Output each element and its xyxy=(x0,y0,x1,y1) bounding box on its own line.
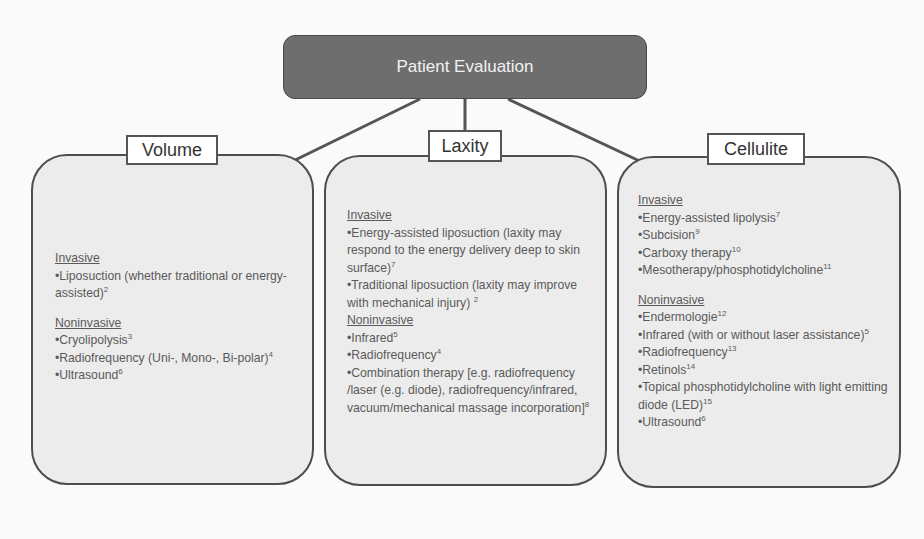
list-item: Radiofrequency13 xyxy=(638,344,888,362)
laxity-content: Invasive Energy-assisted liposuction (la… xyxy=(347,207,592,417)
cellulite-title: Cellulite xyxy=(707,133,805,165)
list-item: Mesotherapy/phosphotidylcholine11 xyxy=(638,262,888,280)
volume-title-label: Volume xyxy=(142,140,202,161)
list-item: Radiofrequency (Uni-, Mono-, Bi-polar)4 xyxy=(55,350,305,368)
list-item: Infrared5 xyxy=(347,330,592,348)
laxity-panel: Invasive Energy-assisted liposuction (la… xyxy=(324,155,607,486)
volume-title: Volume xyxy=(126,135,218,165)
laxity-title-label: Laxity xyxy=(441,136,488,157)
laxity-title: Laxity xyxy=(428,130,502,162)
cellulite-title-label: Cellulite xyxy=(724,139,788,160)
list-item: Combination therapy [e.g. radiofrequency… xyxy=(347,365,592,418)
list-item: Subcision9 xyxy=(638,227,888,245)
list-item: Retinols14 xyxy=(638,362,888,380)
volume-content: Invasive Liposuction (whether traditiona… xyxy=(55,250,305,385)
list-item: Liposuction (whether traditional or ener… xyxy=(55,268,305,303)
list-item: Carboxy therapy10 xyxy=(638,245,888,263)
list-item: Energy-assisted liposuction (laxity may … xyxy=(347,225,592,278)
patient-evaluation-node: Patient Evaluation xyxy=(283,35,647,99)
list-item: Cryolipolysis3 xyxy=(55,332,305,350)
list-item: Topical phosphotidylcholine with light e… xyxy=(638,379,888,414)
list-item: Ultrasound6 xyxy=(638,414,888,432)
section-heading: Invasive xyxy=(55,250,305,268)
section-heading: Invasive xyxy=(638,192,888,210)
list-item: Ultrasound6 xyxy=(55,367,305,385)
cellulite-content: Invasive Energy-assisted lipolysis7 Subc… xyxy=(638,192,888,432)
list-item: Traditional liposuction (laxity may impr… xyxy=(347,277,592,312)
section-heading: Noninvasive xyxy=(347,312,592,330)
section-heading: Noninvasive xyxy=(55,315,305,333)
section-heading: Invasive xyxy=(347,207,592,225)
list-item: Endermologie12 xyxy=(638,309,888,327)
volume-panel: Invasive Liposuction (whether traditiona… xyxy=(31,154,314,485)
list-item: Infrared (with or without laser assistan… xyxy=(638,327,888,345)
section-heading: Noninvasive xyxy=(638,292,888,310)
patient-evaluation-label: Patient Evaluation xyxy=(396,57,533,77)
list-item: Radiofrequency4 xyxy=(347,347,592,365)
list-item: Energy-assisted lipolysis7 xyxy=(638,210,888,228)
cellulite-panel: Invasive Energy-assisted lipolysis7 Subc… xyxy=(617,156,901,488)
